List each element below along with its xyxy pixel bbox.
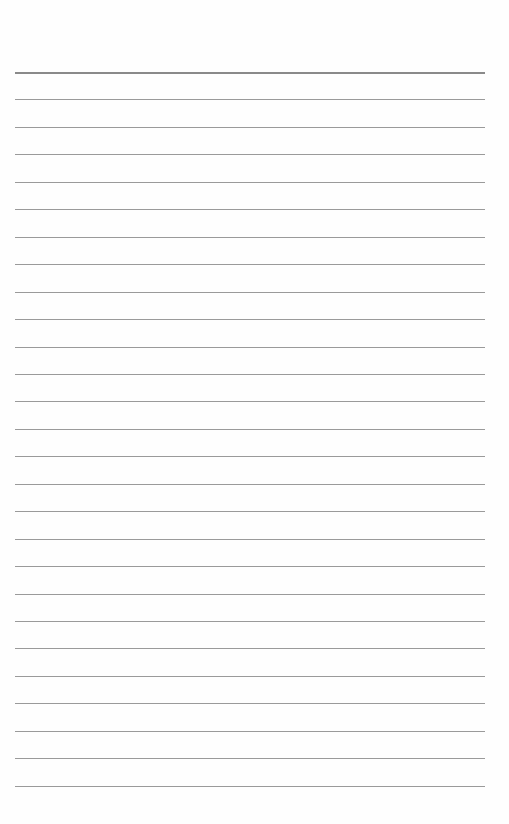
rule-line <box>15 401 485 402</box>
rule-line <box>15 347 485 348</box>
header-rule-line <box>15 72 485 74</box>
rule-line <box>15 648 485 649</box>
rule-line <box>15 374 485 375</box>
rule-line <box>15 182 485 183</box>
rule-line <box>15 731 485 732</box>
rule-line <box>15 154 485 155</box>
rule-line <box>15 264 485 265</box>
rule-line <box>15 319 485 320</box>
rule-line <box>15 429 485 430</box>
rule-line <box>15 786 485 787</box>
rule-line <box>15 456 485 457</box>
lined-paper-page <box>0 0 509 824</box>
rule-line <box>15 237 485 238</box>
rule-line <box>15 511 485 512</box>
rule-line <box>15 99 485 100</box>
rule-line <box>15 539 485 540</box>
rule-line <box>15 209 485 210</box>
rule-line <box>15 484 485 485</box>
rule-line <box>15 703 485 704</box>
rule-line <box>15 758 485 759</box>
rule-line <box>15 676 485 677</box>
rule-line <box>15 621 485 622</box>
rule-line <box>15 566 485 567</box>
rule-line <box>15 292 485 293</box>
rule-line <box>15 594 485 595</box>
rule-line <box>15 127 485 128</box>
